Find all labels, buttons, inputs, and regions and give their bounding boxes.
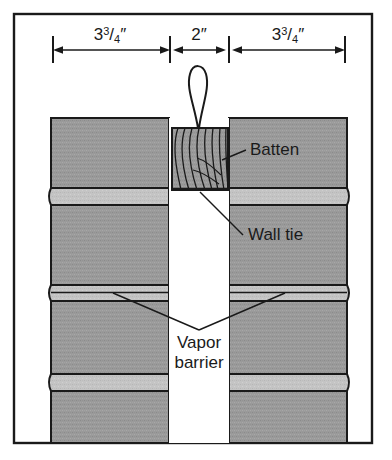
callout-label-batten: Batten [250,140,299,159]
callout-label-vapor-line2: barrier [174,353,223,372]
left-wythe-stack [49,118,169,443]
left-mortar-joint-1 [49,188,169,205]
right-wythe-stack [229,118,349,443]
right-mortar-joint-3 [229,374,349,391]
left-block-course-4 [51,391,169,443]
left-block-course-2 [51,205,169,285]
wall-section-figure: 33/4″ 2″ 33/4″ [0,0,392,460]
dimension-label-right-wythe: 33/4″ [272,25,304,45]
right-mortar-joint-1 [229,188,349,205]
left-block-course-3 [51,301,169,374]
right-block-course-4 [229,391,347,443]
dimension-label-left-wythe: 33/4″ [94,25,126,45]
left-mortar-joint-3 [49,374,169,391]
left-block-course-1 [51,118,169,188]
right-block-course-2 [229,205,347,285]
callout-label-wall-tie: Wall tie [248,225,303,244]
batten-assembly [172,128,228,190]
callout-label-vapor-line1: Vapor [177,333,221,352]
right-block-course-3 [229,301,347,374]
dimension-label-cavity: 2″ [191,25,207,44]
wall-section-drawing: 33/4″ 2″ 33/4″ [0,0,392,460]
